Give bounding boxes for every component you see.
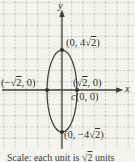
grid-background	[0, 0, 135, 149]
point-left-covertex	[45, 88, 49, 92]
ellipse-graph-figure: y x (0, 4√2) (−√2, 0) (√2, 0) c(0, 0) (0…	[0, 0, 135, 162]
point-top-vertex	[60, 48, 64, 52]
point-label-left: (−√2, 0)	[1, 77, 35, 88]
y-axis-label: y	[58, 0, 63, 11]
point-label-right: (√2, 0)	[73, 77, 102, 88]
scale-caption: Scale: each unit is √2 units	[7, 152, 114, 162]
point-label-bottom: (0, −4√2)	[64, 129, 104, 140]
x-axis-label: x	[125, 83, 130, 94]
point-label-center: c(0, 0)	[71, 91, 98, 102]
point-label-top: (0, 4√2)	[66, 37, 100, 48]
